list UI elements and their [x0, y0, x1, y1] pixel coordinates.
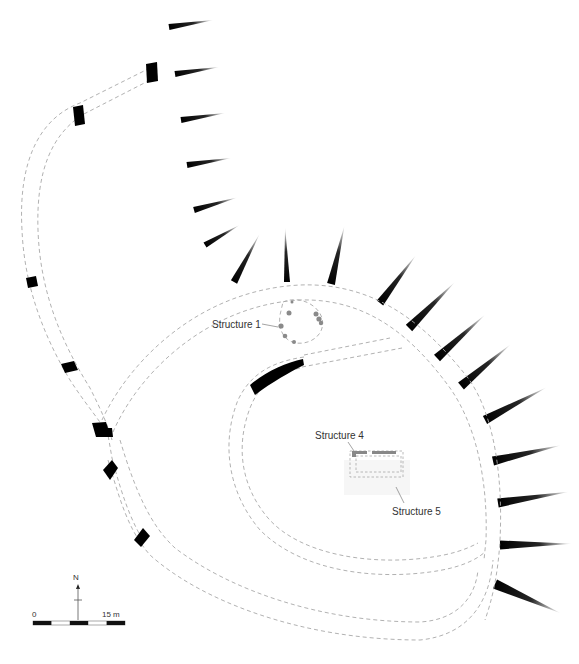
structure-4-label: Structure 4: [315, 430, 364, 441]
site-plan: Structure 1 Structure 4 Structure 5 N 0 …: [0, 0, 579, 664]
structure-4-leader: [348, 442, 354, 451]
wall-block: [103, 460, 118, 480]
scale-start-label: 0: [32, 610, 37, 619]
wall-segments: [26, 62, 304, 547]
scale-bar: 0 15 m: [32, 610, 125, 625]
north-label: N: [73, 573, 79, 582]
structure-5-label: Structure 5: [392, 506, 441, 517]
wall-block: [134, 528, 150, 547]
hachures: [169, 17, 573, 618]
north-arrow: N: [73, 573, 82, 620]
structure-1-stones: [278, 301, 323, 345]
wall-block: [73, 105, 85, 126]
trackways: [22, 65, 501, 640]
wall-block: [92, 422, 113, 437]
scale-end-label: 15 m: [102, 610, 120, 619]
structures-4-5: [344, 451, 410, 495]
structure-1-label: Structure 1: [212, 319, 261, 330]
inner-wall: [250, 359, 304, 395]
wall-block: [26, 276, 38, 288]
structure-1-leader: [262, 324, 278, 327]
wall-block: [146, 62, 158, 83]
